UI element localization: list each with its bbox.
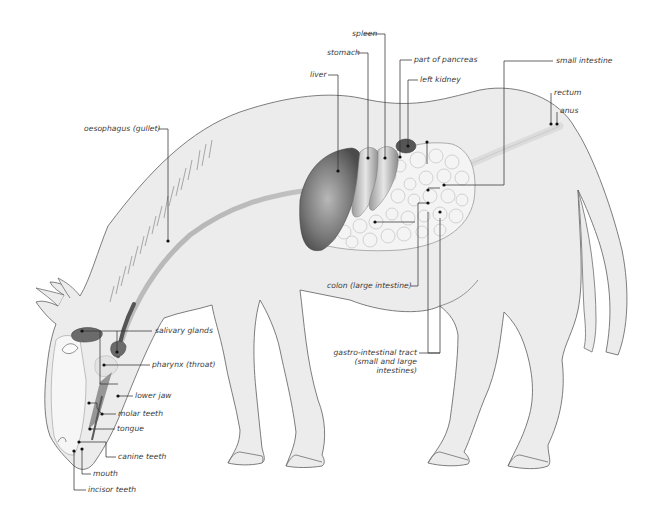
label-colon: colon (large intestine) [327,281,409,290]
label-oesophagus: oesophagus (gullet) [84,124,161,133]
label-tongue: tongue [117,424,144,433]
label-incisor-teeth: incisor teeth [88,485,136,494]
label-liver: liver [310,70,327,79]
label-stomach: stomach [327,48,360,57]
label-small-intestine: small intestine [556,56,613,65]
horse-digestive-diagram: spleen stomach liver part of pancreas le… [0,0,646,516]
label-spleen: spleen [352,29,377,38]
label-gi-tract-line2: (small and large [327,357,417,366]
label-salivary-glands: salivary glands [155,326,213,335]
label-canine-teeth: canine teeth [118,452,166,461]
label-rectum: rectum [554,88,581,97]
label-left-kidney: left kidney [420,75,461,84]
label-lower-jaw: lower jaw [135,391,172,400]
label-part-of-pancreas: part of pancreas [414,55,477,64]
label-mouth: mouth [93,469,118,478]
label-pharynx: pharynx (throat) [152,360,216,369]
salivary-gland-upper [72,328,103,342]
left-kidney-shape [396,139,416,153]
label-anus: anus [560,106,578,115]
label-gi-tract-line3: intestines) [327,366,417,375]
label-gi-tract-line1: gastro-intestinal tract [327,348,417,357]
label-molar-teeth: molar teeth [118,409,163,418]
